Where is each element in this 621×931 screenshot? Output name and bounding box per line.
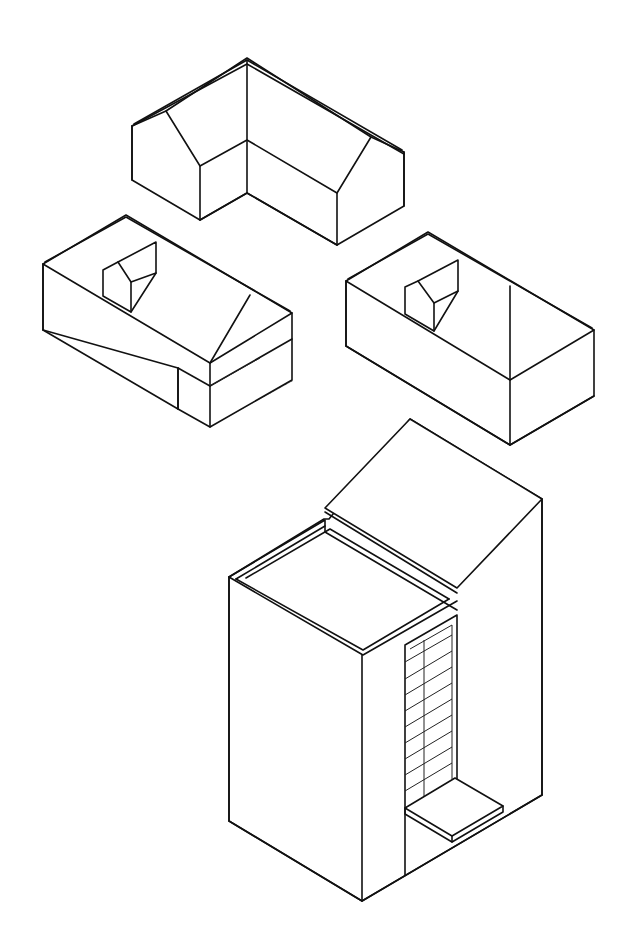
building-hip-roof-with-carport — [43, 215, 293, 427]
building-gable-with-dormer — [346, 232, 594, 445]
building-l-shaped-gable — [132, 58, 404, 245]
isometric-drawing-canvas — [0, 0, 621, 931]
building-tall-block — [229, 419, 542, 901]
